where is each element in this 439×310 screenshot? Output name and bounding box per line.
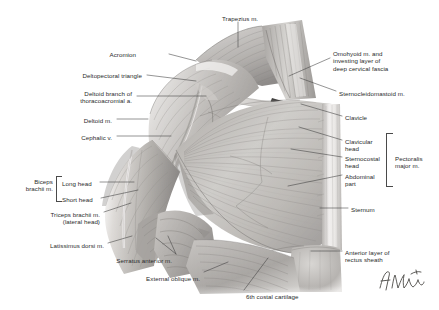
label-anterior-rectus-sheath: Anterior layer of rectus sheath [345, 249, 390, 264]
label-serratus-anterior: Serratus anterior m. [116, 257, 172, 264]
label-external-oblique: External oblique m. [146, 275, 200, 282]
label-deltoid-branch: Deltoid branch of thoracoacromial a. [80, 90, 132, 105]
anatomy-plate: Trapezius m.AcromionOmohyoid m. and inve… [0, 0, 439, 310]
label-triceps-brachii: Triceps brachii m. (lateral head) [51, 211, 101, 226]
label-biceps-brachii: Biceps brachii m. [26, 178, 53, 193]
label-short-head: Short head [62, 196, 93, 203]
label-long-head: Long head [62, 180, 92, 187]
pectoralis-major-bracket [386, 133, 393, 187]
label-clavicular-head: Clavicular head [345, 138, 373, 153]
label-sixth-costal: 6th costal cartilage [246, 293, 299, 300]
label-acromion: Acromion [109, 51, 136, 58]
label-clavicle: Clavicle [345, 114, 367, 121]
label-pectoralis-major: Pectoralis major m. [395, 155, 423, 170]
label-sternum: Sternum [351, 206, 375, 213]
label-latissimus-dorsi: Latissimus dorsi m. [50, 242, 104, 249]
label-abdominal-part: Abdominal part [345, 173, 375, 188]
label-omohyoid: Omohyoid m. and investing layer of deep … [333, 50, 388, 72]
label-deltopectoral: Deltopectoral triangle [82, 72, 142, 79]
artist-signature [376, 266, 428, 296]
label-cephalic-vein: Cephalic v. [81, 134, 112, 141]
label-deltoid: Deltoid m. [84, 117, 112, 124]
label-sternocleidomastoid: Sternocleidomastoid m. [339, 90, 405, 97]
label-sternocostal-head: Sternocostal head [345, 155, 380, 170]
label-trapezius: Trapezius m. [222, 15, 258, 22]
